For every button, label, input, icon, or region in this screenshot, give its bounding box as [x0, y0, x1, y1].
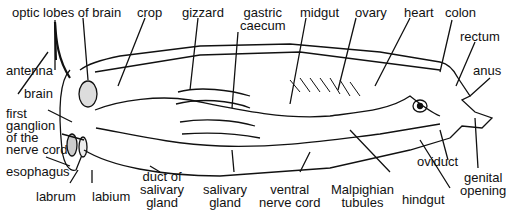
label-antenna: antenna [6, 64, 53, 77]
label-oviduct: oviduct [417, 155, 458, 168]
abdomen-tip [450, 78, 492, 138]
label-malpighian-tubules: Malpighian tubules [331, 183, 394, 209]
ventral-outline [84, 138, 450, 176]
label-optic-lobes-of-brain: optic lobes of brain [12, 6, 121, 19]
label-hindgut: hindgut [402, 193, 445, 206]
dorsal-outline [80, 44, 458, 78]
label-esophagus: esophagus [6, 165, 70, 178]
label-ovary: ovary [355, 6, 387, 19]
label-gizzard: gizzard [182, 6, 224, 19]
label-first-ganglion: first ganglion of the nerve cord [6, 108, 67, 156]
label-ventral-nerve-cord: ventral nerve cord [259, 183, 320, 209]
brain-drawing [79, 81, 97, 107]
label-genital-opening: genital opening [460, 171, 506, 197]
label-duct-of-salivary-gland: duct of salivary gland [140, 170, 184, 209]
label-anus: anus [473, 64, 501, 77]
insect-anatomy-diagram: optic lobes of brain crop gizzard gastri… [0, 0, 510, 212]
label-salivary-gland: salivary gland [203, 183, 247, 209]
label-rectum: rectum [460, 30, 500, 43]
antenna-drawing [55, 22, 70, 78]
label-labium: labium [92, 190, 130, 203]
label-gastric-caecum: gastric caecum [240, 6, 286, 32]
label-labrum: labrum [36, 190, 76, 203]
label-heart: heart [404, 6, 434, 19]
label-brain: brain [24, 87, 53, 100]
label-midgut: midgut [300, 6, 339, 19]
label-colon: colon [445, 6, 476, 19]
label-crop: crop [137, 6, 162, 19]
